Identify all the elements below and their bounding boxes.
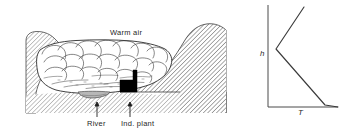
height-axis-label: h bbox=[260, 49, 265, 58]
temperature-profile-line bbox=[276, 7, 338, 107]
warm-air-label: Warm air bbox=[110, 28, 142, 37]
temperature-height-profile bbox=[268, 5, 338, 107]
valley-cross-section bbox=[26, 24, 226, 117]
scientific-figure bbox=[0, 0, 339, 131]
temperature-axis-label: T bbox=[298, 108, 303, 117]
river-label: River bbox=[87, 119, 106, 128]
industrial-plant-label: Ind. plant bbox=[121, 119, 154, 128]
